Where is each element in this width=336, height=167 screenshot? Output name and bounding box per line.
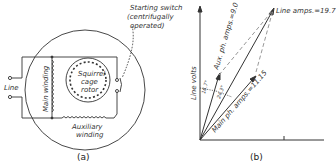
caption-a: (a) (77, 152, 90, 162)
aux-winding-coil (62, 117, 106, 119)
line-terminal-bottom (8, 95, 11, 98)
starting-switch-label-3: operated) (130, 22, 165, 30)
aux-winding-label-2: winding (76, 131, 104, 139)
aux-winding-label-1: Auxiliary (71, 123, 103, 131)
angle-aux-label: 16.7° (200, 79, 209, 94)
panel-b-labels: Line volts Line amps.=19.7 Aux. ph. amps… (190, 1, 336, 162)
caption-b: (b) (250, 152, 263, 162)
rotor-label-2: cage (81, 78, 98, 86)
aux-amps-label: Aux. ph. amps.=9.0 (212, 1, 240, 71)
rotor-label-3: rotor (81, 86, 99, 94)
line-volts-label: Line volts (190, 66, 198, 100)
main-winding-label: Main winding (42, 65, 50, 112)
line-amps-label: Line amps.=19.7 (276, 7, 336, 15)
panel-a-labels: Starting switch (centrifugally operated)… (4, 4, 183, 162)
wire-bottom (12, 97, 57, 118)
line-terminal-top (8, 76, 11, 79)
starting-switch-label: Starting switch (130, 4, 183, 12)
starting-switch-label-2: (centrifugally (127, 13, 174, 21)
rotor-label-1: Squirrel (78, 70, 105, 78)
split-phase-motor-diagram: Starting switch (centrifugally operated)… (0, 0, 336, 167)
line-label: Line (4, 84, 19, 92)
starting-switch (116, 26, 134, 93)
